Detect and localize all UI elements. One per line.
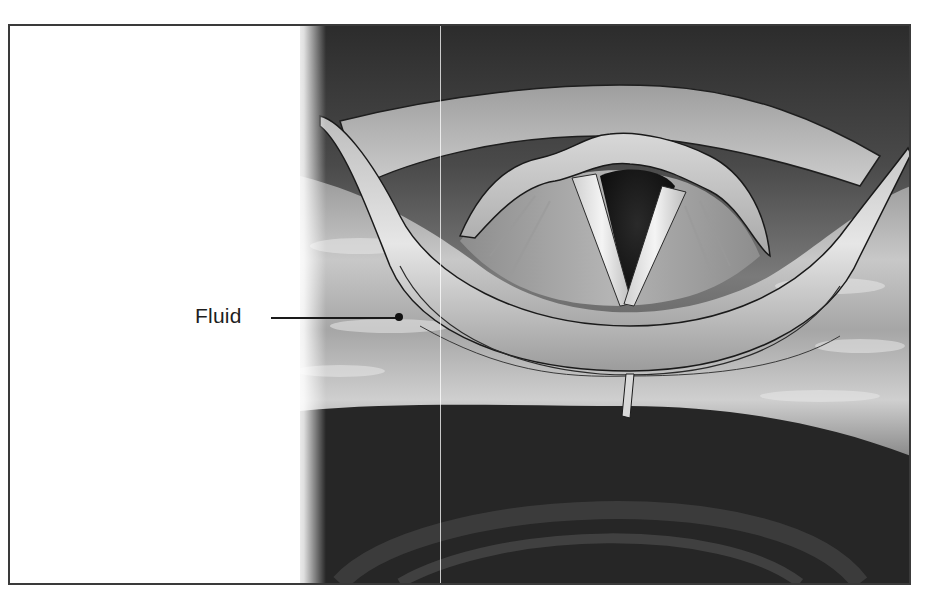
larynx-drawing — [300, 26, 911, 583]
figure-frame: Fluid — [8, 24, 911, 585]
fluid-label: Fluid — [195, 304, 242, 328]
fluid-leader-line — [271, 317, 399, 319]
fluid-leader-dot — [395, 313, 403, 321]
vertical-guide-line — [440, 26, 441, 583]
larynx-illustration — [300, 26, 911, 583]
